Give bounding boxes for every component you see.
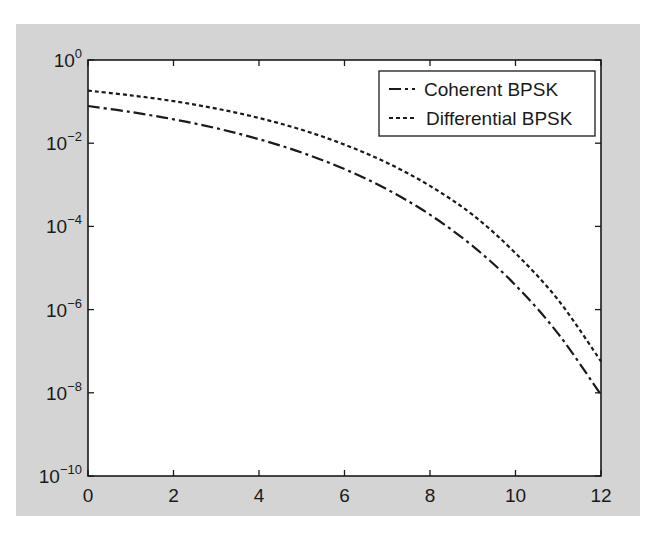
legend: Coherent BPSK Differential BPSK — [379, 71, 595, 136]
x-tick-label: 4 — [254, 485, 265, 506]
x-tick-label: 8 — [425, 485, 436, 506]
legend-label-differential: Differential BPSK — [426, 108, 573, 129]
x-tick-label: 12 — [590, 485, 611, 506]
x-tick-label: 10 — [505, 485, 526, 506]
x-tick-label: 0 — [83, 485, 94, 506]
legend-label-coherent: Coherent BPSK — [424, 79, 558, 100]
x-tick-label: 2 — [168, 485, 179, 506]
chart: 024681012 10010−210−410−610−810−10 Coher… — [0, 0, 657, 534]
x-tick-label: 6 — [339, 485, 350, 506]
